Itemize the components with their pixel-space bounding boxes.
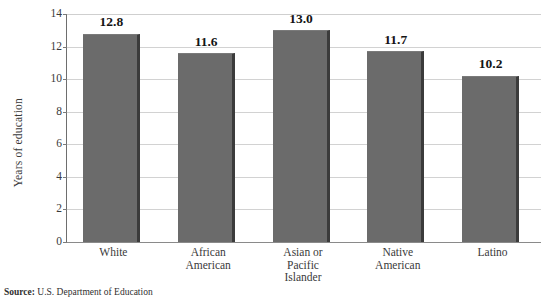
x-category-label-line: Latino bbox=[445, 246, 540, 259]
plot-area: 12.811.613.011.710.2 bbox=[66, 14, 541, 243]
bar-group: 12.8 bbox=[83, 14, 140, 242]
source-note: Source: U.S. Department of Education bbox=[4, 287, 153, 297]
bar bbox=[462, 76, 519, 242]
x-category-label-line: American bbox=[161, 259, 256, 272]
bar-group: 13.0 bbox=[273, 14, 330, 242]
bar-chart-figure: Years of education 02468101214 12.811.61… bbox=[0, 0, 547, 302]
x-category-label: Asian orPacificIslander bbox=[256, 246, 351, 284]
bar bbox=[367, 51, 424, 242]
bar-value-label: 11.7 bbox=[384, 33, 407, 47]
x-category-label-line: American bbox=[350, 259, 445, 272]
bar-value-label: 13.0 bbox=[289, 12, 313, 26]
y-axis-tick-labels: 02468101214 bbox=[32, 0, 62, 302]
y-tick-label: 2 bbox=[32, 204, 62, 216]
y-axis-title: Years of education bbox=[6, 48, 30, 238]
bar-group: 10.2 bbox=[462, 14, 519, 242]
y-tick-label: 14 bbox=[32, 8, 62, 20]
y-axis-title-text: Years of education bbox=[12, 98, 24, 187]
x-category-label-line: Asian or bbox=[256, 246, 351, 259]
source-text: U.S. Department of Education bbox=[37, 287, 152, 297]
bar-value-label: 10.2 bbox=[479, 57, 503, 71]
x-category-label: NativeAmerican bbox=[350, 246, 445, 271]
source-label: Source: bbox=[4, 287, 35, 297]
x-category-label-line: Islander bbox=[256, 271, 351, 284]
y-tick-label: 12 bbox=[32, 41, 62, 53]
y-tick-label: 6 bbox=[32, 139, 62, 151]
x-category-label: White bbox=[66, 246, 161, 259]
bar-value-label: 12.8 bbox=[100, 15, 124, 29]
y-tick-label: 10 bbox=[32, 73, 62, 85]
bar-group: 11.7 bbox=[367, 14, 424, 242]
y-tick-mark bbox=[63, 242, 67, 243]
bar bbox=[178, 53, 235, 242]
y-tick-label: 8 bbox=[32, 106, 62, 118]
bar bbox=[83, 34, 140, 242]
bar bbox=[273, 30, 330, 242]
y-tick-label: 4 bbox=[32, 171, 62, 183]
x-category-label-line: Native bbox=[350, 246, 445, 259]
x-axis-category-labels: WhiteAfricanAmericanAsian orPacificIslan… bbox=[66, 246, 540, 290]
y-tick-label: 0 bbox=[32, 236, 62, 248]
x-category-label-line: African bbox=[161, 246, 256, 259]
bar-value-label: 11.6 bbox=[195, 35, 218, 49]
x-category-label: AfricanAmerican bbox=[161, 246, 256, 271]
bars-layer: 12.811.613.011.710.2 bbox=[67, 14, 541, 242]
x-category-label-line: White bbox=[66, 246, 161, 259]
bar-group: 11.6 bbox=[178, 14, 235, 242]
x-category-label-line: Pacific bbox=[256, 259, 351, 272]
x-category-label: Latino bbox=[445, 246, 540, 259]
